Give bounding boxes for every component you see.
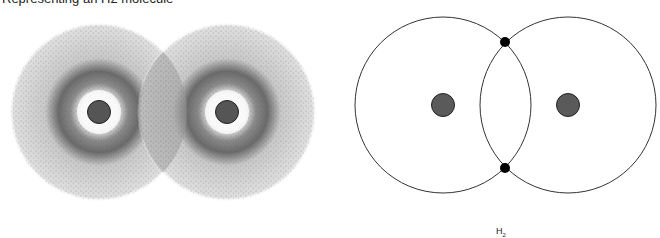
molecule-label: H2: [496, 226, 506, 238]
shell-model: [355, 17, 656, 193]
nucleus-right: [557, 94, 580, 117]
electron-top: [500, 37, 510, 47]
electron-cloud-model: [9, 22, 317, 202]
electron-bottom: [500, 163, 510, 173]
h2-diagram: [0, 0, 660, 238]
nucleus-left: [88, 101, 111, 124]
nucleus-left: [432, 94, 455, 117]
nucleus-right: [216, 101, 239, 124]
